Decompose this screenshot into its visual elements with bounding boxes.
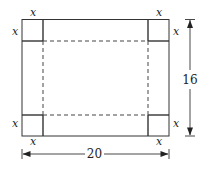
width-dimension: 20 bbox=[22, 147, 169, 161]
height-label: 16 bbox=[182, 73, 197, 87]
label-top-right-top: x bbox=[156, 6, 163, 19]
corner-square-bottom-right bbox=[148, 115, 169, 136]
label-bottom-left-bottom: x bbox=[30, 135, 37, 148]
fold-lines bbox=[43, 41, 148, 115]
corner-square-top-left bbox=[22, 20, 43, 42]
label-bottom-right-bottom: x bbox=[156, 135, 163, 148]
corner-square-bottom-left bbox=[22, 115, 43, 136]
arrow-left-icon bbox=[23, 151, 31, 157]
height-dimension: 16 bbox=[182, 20, 197, 137]
arrow-right-icon bbox=[161, 151, 169, 157]
label-bottom-left-side: x bbox=[12, 117, 19, 130]
label-top-left-top: x bbox=[30, 6, 37, 19]
outer-sheet-rectangle bbox=[22, 20, 169, 137]
box-net-diagram: x x x x x x x x 16 20 bbox=[0, 0, 206, 169]
corner-square-top-right bbox=[148, 20, 169, 42]
arrow-up-icon bbox=[187, 20, 193, 28]
label-bottom-right-side: x bbox=[173, 117, 180, 130]
label-top-left-side: x bbox=[12, 25, 19, 38]
label-top-right-side: x bbox=[173, 25, 180, 38]
arrow-down-icon bbox=[187, 128, 193, 136]
width-label: 20 bbox=[87, 147, 102, 161]
